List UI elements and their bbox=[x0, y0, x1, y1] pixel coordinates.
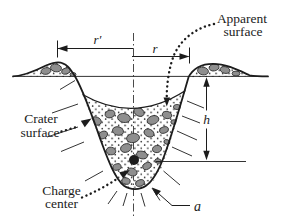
fracture-ray bbox=[187, 101, 204, 108]
fracture-ray bbox=[172, 147, 192, 156]
fracture-ray bbox=[164, 171, 181, 185]
charge-center-label-line2: center bbox=[45, 196, 78, 211]
fracture-ray bbox=[60, 81, 75, 90]
stone bbox=[232, 71, 240, 76]
crater-surface-arrowhead bbox=[81, 119, 92, 128]
fracture-ray bbox=[177, 131, 197, 140]
r-dimension: r bbox=[132, 41, 190, 64]
fracture-ray bbox=[108, 191, 117, 204]
apparent-surface-callout: Apparent surface bbox=[164, 11, 268, 106]
r-prime-arrowhead bbox=[58, 45, 68, 51]
fracture-ray bbox=[123, 193, 127, 206]
crater-surface-leader bbox=[62, 126, 80, 131]
crater-surface-label-line2: surface bbox=[21, 125, 60, 140]
fracture-ray bbox=[141, 193, 145, 207]
r-prime-dimension: r′ bbox=[58, 32, 134, 58]
a-label: a bbox=[194, 199, 201, 214]
fracture-ray bbox=[61, 142, 84, 152]
h-arrowhead-up bbox=[203, 77, 209, 87]
apparent-surface-label-line2: surface bbox=[224, 24, 263, 39]
r-label: r bbox=[152, 41, 158, 56]
charge-center-leader bbox=[82, 179, 117, 198]
h-arrowhead-down bbox=[203, 151, 209, 161]
a-pointer-line bbox=[159, 194, 191, 206]
fracture-ray bbox=[85, 171, 103, 181]
crater-surface-callout: Crater surface bbox=[21, 111, 92, 140]
r-arrowhead bbox=[180, 53, 190, 59]
r-prime-label: r′ bbox=[94, 32, 102, 47]
fracture-ray bbox=[182, 116, 200, 123]
charge-center-point bbox=[129, 155, 139, 165]
crater-diagram: r′ r h a Apparent surface Crater surface bbox=[0, 0, 281, 221]
diagram-canvas: r′ r h a Apparent surface Crater surface bbox=[0, 0, 281, 221]
crater-surface-label-line1: Crater bbox=[24, 111, 58, 126]
a-pointer: a bbox=[152, 188, 201, 215]
h-label: h bbox=[203, 112, 210, 127]
